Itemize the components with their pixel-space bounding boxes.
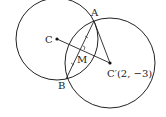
right-angle-mark bbox=[83, 46, 85, 50]
diagram-svg: A B C M C′(2, −3) bbox=[0, 0, 166, 117]
label-a: A bbox=[90, 7, 99, 18]
point-c bbox=[55, 37, 58, 40]
point-c-prime bbox=[108, 61, 111, 64]
geometry-diagram: A B C M C′(2, −3) bbox=[0, 0, 166, 117]
label-m: M bbox=[77, 54, 87, 65]
label-c: C bbox=[45, 34, 53, 45]
label-b: B bbox=[58, 80, 65, 91]
label-c-prime: C′(2, −3) bbox=[107, 68, 152, 79]
